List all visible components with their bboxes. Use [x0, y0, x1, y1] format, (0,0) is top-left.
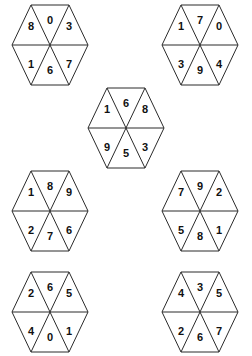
hexagon-cell-digit: 8 [197, 230, 203, 242]
hexagon-cell-digit: 1 [28, 186, 34, 198]
hexagon: 357624 [162, 272, 238, 352]
hexagon-cell-digit: 6 [47, 64, 53, 76]
hexagon-cell-digit: 0 [216, 20, 222, 32]
hexagon-cell-digit: 5 [123, 147, 129, 159]
hexagon-cell-digit: 7 [216, 325, 222, 337]
hexagon: 896721 [12, 171, 88, 251]
hexagon-cell-digit: 4 [216, 58, 223, 70]
hexagon: 037618 [12, 5, 88, 85]
hexagon-cell-digit: 2 [216, 186, 222, 198]
hexagon-cell-digit: 6 [66, 224, 72, 236]
hexagon-cell-digit: 7 [66, 58, 72, 70]
hexagon-cell-digit: 3 [66, 20, 72, 32]
hexagon-cell-digit: 1 [178, 20, 184, 32]
hexagon-cell-digit: 6 [47, 281, 53, 293]
hexagon-cell-digit: 1 [104, 103, 110, 115]
hexagon-cell-digit: 6 [123, 97, 129, 109]
hexagon-cell-digit: 4 [28, 325, 35, 337]
hexagon-cell-digit: 0 [47, 14, 53, 26]
hexagon-cell-digit: 7 [47, 230, 53, 242]
hexagon-cell-digit: 1 [66, 325, 72, 337]
hexagon-cell-digit: 8 [47, 180, 53, 192]
hexagon-cell-digit: 6 [197, 331, 203, 343]
hexagon-cell-digit: 7 [197, 14, 203, 26]
hexagon-cell-digit: 3 [178, 58, 184, 70]
hexagon-cell-digit: 1 [28, 58, 34, 70]
hexagon-cell-digit: 5 [216, 287, 222, 299]
hexagon-cell-digit: 9 [104, 141, 110, 153]
hexagon-cell-digit: 5 [66, 287, 72, 299]
hexagon-cell-digit: 8 [28, 20, 34, 32]
hexagon-cell-digit: 1 [216, 224, 222, 236]
hexagon-cell-digit: 8 [142, 103, 148, 115]
hexagon-cell-digit: 4 [178, 287, 185, 299]
hexagon-group: 0376187049316835918967219218576510423576… [12, 5, 238, 352]
hexagon-cell-digit: 5 [178, 224, 184, 236]
hexagon-cell-digit: 3 [197, 281, 203, 293]
hexagon-cell-digit: 9 [197, 64, 203, 76]
hexagon: 921857 [162, 171, 238, 251]
hexagon-cell-digit: 3 [142, 141, 148, 153]
hexagon-cell-digit: 0 [47, 331, 53, 343]
hexagon-cell-digit: 7 [178, 186, 184, 198]
hexagon-cell-digit: 2 [28, 287, 34, 299]
hexagon-cell-digit: 9 [66, 186, 72, 198]
hexagon: 704931 [162, 5, 238, 85]
hexagon-cell-digit: 2 [178, 325, 184, 337]
hexagon-cell-digit: 2 [28, 224, 34, 236]
hexagon: 651042 [12, 272, 88, 352]
hexagon: 683591 [88, 88, 164, 168]
hexagon-puzzle-figure: 0376187049316835918967219218576510423576… [0, 0, 252, 356]
hexagon-cell-digit: 9 [197, 180, 203, 192]
